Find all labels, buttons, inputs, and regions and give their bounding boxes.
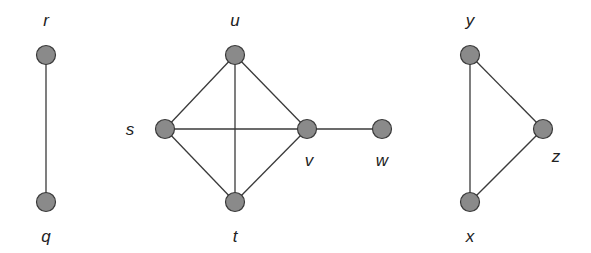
node-label-v: v <box>305 151 315 170</box>
node-label-w: w <box>376 151 390 170</box>
node-label-s: s <box>126 120 135 139</box>
node-u <box>226 46 245 65</box>
edge-s-t <box>165 129 235 202</box>
edge-t-v <box>235 129 307 202</box>
node-r <box>37 46 56 65</box>
node-label-t: t <box>233 227 239 246</box>
node-q <box>37 193 56 212</box>
edge-u-s <box>165 55 235 129</box>
edge-x-z <box>470 129 543 202</box>
edge-u-v <box>235 55 307 129</box>
node-label-x: x <box>465 227 475 246</box>
node-v <box>298 120 317 139</box>
node-label-u: u <box>230 11 240 30</box>
node-label-z: z <box>551 147 561 166</box>
node-z <box>534 120 553 139</box>
node-w <box>373 120 392 139</box>
node-s <box>156 120 175 139</box>
node-x <box>461 193 480 212</box>
graph-svg: rqusvwtyzx <box>0 0 591 253</box>
node-label-r: r <box>43 11 50 30</box>
node-label-y: y <box>465 11 476 30</box>
node-t <box>226 193 245 212</box>
node-label-q: q <box>41 227 51 246</box>
node-y <box>461 46 480 65</box>
edges-group <box>46 55 543 202</box>
edge-y-z <box>470 55 543 129</box>
graph-diagram: rqusvwtyzx <box>0 0 591 253</box>
